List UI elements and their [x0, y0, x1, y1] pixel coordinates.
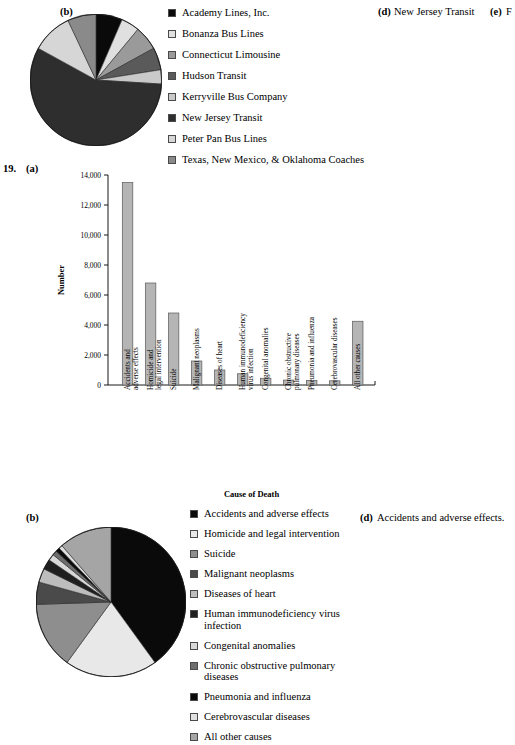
y-tick-label: 2,000	[84, 351, 101, 360]
bus-carriers-legend-item: Connecticut Limousine	[168, 49, 368, 61]
top-part-e-label: (e)	[490, 6, 502, 17]
bar-chart-svg: 02,0004,0006,0008,00010,00012,00014,000N…	[20, 160, 395, 500]
legend-label: Pneumonia and influenza	[204, 691, 311, 703]
legend-label: Congenital anomalies	[204, 640, 295, 652]
cause-of-death-legend: Accidents and adverse effectsHomicide an…	[190, 508, 365, 745]
cause-of-death-legend-item: Accidents and adverse effects	[190, 508, 365, 520]
cause-of-death-pie-chart	[36, 527, 186, 677]
bottom-part-b-label: (b)	[26, 512, 39, 523]
x-tick-label-line: virus infection	[247, 348, 255, 390]
legend-label: Homicide and legal intervention	[204, 528, 340, 540]
y-tick-label: 14,000	[80, 171, 101, 180]
legend-label: Bonanza Bus Lines	[182, 28, 264, 40]
question-number: 19.	[3, 163, 16, 174]
legend-label: Suicide	[204, 548, 236, 560]
legend-label: Peter Pan Bus Lines	[182, 133, 267, 145]
y-tick-label: 4,000	[84, 321, 101, 330]
legend-swatch-icon	[190, 530, 198, 538]
cause-of-death-legend-item: Malignant neoplasms	[190, 568, 365, 580]
x-tick-label: Chronic obstructivepulmonary diseases	[285, 333, 301, 390]
x-tick-label-line: Pneumonia and influenza	[308, 316, 316, 390]
legend-swatch-icon	[168, 30, 176, 38]
y-tick-label: 0	[97, 381, 101, 390]
legend-label: Cerebrovascular diseases	[204, 711, 310, 723]
legend-swatch-icon	[168, 9, 176, 17]
legend-swatch-icon	[190, 733, 198, 741]
legend-swatch-icon	[190, 590, 198, 598]
legend-label: New Jersey Transit	[182, 112, 263, 124]
legend-swatch-icon	[190, 693, 198, 701]
legend-label: Academy Lines, Inc.	[182, 7, 269, 19]
legend-swatch-icon	[168, 93, 176, 101]
legend-swatch-icon	[168, 114, 176, 122]
legend-swatch-icon	[168, 72, 176, 80]
legend-swatch-icon	[190, 550, 198, 558]
legend-label: Connecticut Limousine	[182, 49, 280, 61]
legend-swatch-icon	[168, 51, 176, 59]
x-tick-label: Human immunodeficiencyvirus infection	[239, 313, 255, 390]
x-tick-label: Congenital anomalies	[262, 327, 270, 390]
x-tick-label: Diseases of heart	[216, 341, 224, 390]
cause-of-death-legend-item: Chronic obstructive pulmonary diseases	[190, 660, 365, 683]
x-tick-label: Suicide	[170, 368, 178, 390]
legend-swatch-icon	[190, 662, 198, 670]
y-tick-label: 12,000	[80, 201, 101, 210]
pie-svg	[30, 14, 162, 146]
legend-label: Human immunodeficiency virus infection	[204, 608, 340, 631]
legend-label: Chronic obstructive pulmonary diseases	[204, 660, 335, 683]
x-tick-label: Pneumonia and influenza	[308, 316, 316, 390]
x-tick-label: Malignant neoplasms	[193, 328, 201, 390]
legend-label: Diseases of heart	[204, 588, 276, 600]
bus-carriers-legend-item: Academy Lines, Inc.	[168, 7, 368, 19]
x-tick-label: Accidents andadverse effects	[124, 347, 140, 390]
cause-of-death-legend-item: Pneumonia and influenza	[190, 691, 365, 703]
x-tick-label-line: Cerebrovascular diseases	[331, 317, 339, 390]
legend-swatch-icon	[190, 570, 198, 578]
x-tick-label: All other causes	[354, 343, 362, 390]
top-part-d-text: New Jersey Transit	[394, 6, 475, 17]
cause-of-death-legend-item: Diseases of heart	[190, 588, 365, 600]
cause-of-death-legend-item: Suicide	[190, 548, 365, 560]
x-tick-label: Cerebrovascular diseases	[331, 317, 339, 390]
legend-swatch-icon	[190, 610, 198, 618]
legend-swatch-icon	[190, 713, 198, 721]
x-tick-label-line: Diseases of heart	[216, 341, 224, 390]
x-tick-label-line: legal intervention	[155, 339, 163, 390]
cause-of-death-legend-item: Homicide and legal intervention	[190, 528, 365, 540]
legend-label: All other causes	[204, 731, 272, 743]
cause-of-death-bar-chart: 02,0004,0006,0008,00010,00012,00014,000N…	[20, 160, 395, 500]
bus-carriers-legend: Academy Lines, Inc.Bonanza Bus LinesConn…	[168, 7, 368, 175]
bus-carriers-legend-item: Hudson Transit	[168, 70, 368, 82]
legend-label: Hudson Transit	[182, 70, 246, 82]
y-tick-label: 8,000	[84, 261, 101, 270]
x-tick-label-line: pulmonary diseases	[293, 333, 301, 390]
x-tick-label-line: Malignant neoplasms	[193, 328, 201, 390]
bottom-part-d-label: (d)	[360, 512, 373, 523]
legend-label: Malignant neoplasms	[204, 568, 294, 580]
x-tick-label-line: Congenital anomalies	[262, 327, 270, 390]
legend-label: Kerryville Bus Company	[182, 91, 288, 103]
top-part-d-label: (d)	[378, 6, 391, 17]
y-tick-label: 10,000	[80, 231, 101, 240]
x-tick-label-line: Suicide	[170, 368, 178, 390]
x-tick-label-line: adverse effects	[132, 347, 140, 390]
top-part-e-text: F	[506, 6, 512, 17]
y-axis-title: Number	[56, 265, 66, 295]
pie-svg	[36, 527, 186, 677]
legend-label: Accidents and adverse effects	[204, 508, 329, 520]
x-tick-label-line: All other causes	[354, 343, 362, 390]
bus-carriers-legend-item: Peter Pan Bus Lines	[168, 133, 368, 145]
bus-carriers-pie-chart	[30, 14, 162, 146]
x-axis-title: Cause of Death	[224, 489, 280, 499]
bus-carriers-legend-item: New Jersey Transit	[168, 112, 368, 124]
cause-of-death-legend-item: All other causes	[190, 731, 365, 743]
legend-swatch-icon	[190, 510, 198, 518]
bottom-part-d-text: Accidents and adverse effects.	[377, 512, 505, 523]
bus-carriers-legend-item: Kerryville Bus Company	[168, 91, 368, 103]
y-tick-label: 6,000	[84, 291, 101, 300]
legend-swatch-icon	[190, 642, 198, 650]
cause-of-death-legend-item: Human immunodeficiency virus infection	[190, 608, 365, 631]
legend-swatch-icon	[168, 135, 176, 143]
cause-of-death-legend-item: Congenital anomalies	[190, 640, 365, 652]
bus-carriers-legend-item: Bonanza Bus Lines	[168, 28, 368, 40]
